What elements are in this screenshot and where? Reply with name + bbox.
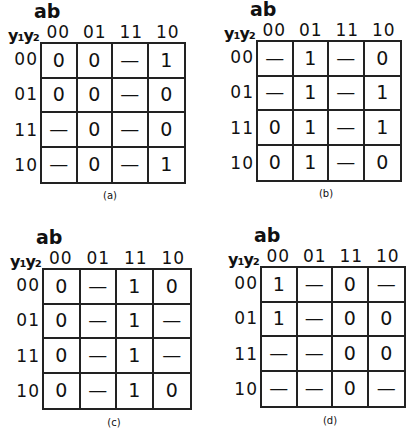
kmap-grid: 1—0—1—00——00——0— <box>260 266 406 408</box>
kmap-cell: — <box>113 113 149 148</box>
column-header: 10 <box>155 250 193 267</box>
kmap-cell: 0 <box>149 113 185 148</box>
row-header: 11 <box>2 348 40 365</box>
column-header: 01 <box>293 22 330 39</box>
kmap-cell: — <box>298 372 334 407</box>
kmap-grid: —1—0—1—101—101—0 <box>256 40 402 182</box>
kmap-cell: — <box>329 77 365 112</box>
kmap-cell: 1 <box>294 42 330 77</box>
kmap-cell: — <box>329 146 365 181</box>
column-variable-label: ab <box>36 228 62 247</box>
kmap-cell: 1 <box>365 111 401 146</box>
kmap-cell: — <box>113 148 149 183</box>
kmap-cell: 1 <box>117 305 154 340</box>
kmap-cell: — <box>298 303 334 338</box>
kmap-cell: — <box>262 372 298 407</box>
kmap-cell: — <box>42 148 78 183</box>
column-header: 10 <box>370 248 407 265</box>
row-header: 00 <box>2 277 40 294</box>
kmap-cell: 0 <box>333 337 369 372</box>
row-header: 00 <box>216 49 254 66</box>
kmap-cell: 1 <box>149 44 185 79</box>
kmap-cell: 1 <box>262 268 298 303</box>
column-header: 10 <box>150 24 187 41</box>
column-header: 11 <box>117 250 155 267</box>
kmap-cell: 1 <box>117 270 154 305</box>
kmap-cell: 1 <box>294 111 330 146</box>
kmap-cell: 1 <box>117 339 154 374</box>
kmap-cell: 1 <box>294 77 330 112</box>
kmap-cell: 0 <box>149 79 185 114</box>
kmap-cell: — <box>154 339 191 374</box>
row-variable-label: y₁y₂ <box>224 26 255 42</box>
kmap-cell: — <box>258 77 294 112</box>
kmap-cell: 0 <box>333 372 369 407</box>
kmap-cell: — <box>81 270 118 305</box>
kmap-cell: — <box>369 372 405 407</box>
kmap-cell: 0 <box>78 148 114 183</box>
kmap-cell: — <box>262 337 298 372</box>
kmap-cell: — <box>329 111 365 146</box>
kmap-cell: 0 <box>369 337 405 372</box>
kmap-cell: — <box>298 268 334 303</box>
kmap-cell: — <box>81 374 118 409</box>
row-variable-label: y₁y₂ <box>8 28 39 44</box>
kmap-cell: 0 <box>333 268 369 303</box>
column-header: 01 <box>80 250 118 267</box>
kmap-cell: 0 <box>42 79 78 114</box>
column-header: 11 <box>113 24 150 41</box>
kmap-cell: — <box>113 79 149 114</box>
kmap-cell: 0 <box>365 146 401 181</box>
column-header: 11 <box>333 248 370 265</box>
kmap-cell: 0 <box>44 374 81 409</box>
kmap-cell: — <box>81 305 118 340</box>
kmap-cell: 0 <box>365 42 401 77</box>
kmap-cell: 0 <box>44 305 81 340</box>
figure-caption: (b) <box>311 189 341 199</box>
figure-caption: (c) <box>99 418 129 428</box>
kmap-cell: 1 <box>365 77 401 112</box>
kmap-cell: 0 <box>333 303 369 338</box>
column-header: 00 <box>40 24 77 41</box>
row-variable-label: y₁y₂ <box>228 252 259 268</box>
kmap-grid: 00—100—0—0—0—0—1 <box>40 42 186 184</box>
kmap-cell: — <box>298 337 334 372</box>
kmap-grid: 0—100—1—0—1—0—10 <box>42 268 192 410</box>
kmap-cell: 0 <box>78 44 114 79</box>
column-header: 00 <box>260 248 297 265</box>
figure-caption: (a) <box>95 191 125 201</box>
kmap-cell: — <box>42 113 78 148</box>
kmap-cell: 0 <box>154 374 191 409</box>
row-header: 01 <box>220 310 258 327</box>
kmap-cell: 0 <box>44 270 81 305</box>
row-header: 00 <box>220 275 258 292</box>
row-variable-label: y₁y₂ <box>10 254 41 270</box>
column-variable-label: ab <box>34 2 60 21</box>
column-header: 11 <box>329 22 366 39</box>
column-variable-label: ab <box>250 0 276 19</box>
row-header: 11 <box>0 122 38 139</box>
kmap-cell: — <box>113 44 149 79</box>
kmap-cell: — <box>329 42 365 77</box>
row-header: 10 <box>220 381 258 398</box>
row-header: 10 <box>216 155 254 172</box>
kmap-cell: 0 <box>154 270 191 305</box>
row-header: 10 <box>0 157 38 174</box>
kmap-cell: 0 <box>44 339 81 374</box>
kmap-cell: — <box>369 268 405 303</box>
kmap-cell: 0 <box>369 303 405 338</box>
column-header: 01 <box>77 24 114 41</box>
kmap-cell: 0 <box>42 44 78 79</box>
column-header: 01 <box>297 248 334 265</box>
column-variable-label: ab <box>254 226 280 245</box>
kmap-cell: 1 <box>294 146 330 181</box>
row-header: 11 <box>216 120 254 137</box>
row-header: 01 <box>2 312 40 329</box>
column-header: 10 <box>366 22 403 39</box>
kmap-cell: 1 <box>149 148 185 183</box>
kmap-cell: — <box>81 339 118 374</box>
kmap-cell: 1 <box>117 374 154 409</box>
row-header: 11 <box>220 346 258 363</box>
kmap-cell: 0 <box>78 79 114 114</box>
kmap-cell: 1 <box>262 303 298 338</box>
